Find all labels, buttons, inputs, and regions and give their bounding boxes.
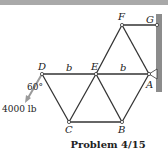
angle-label: 60° <box>27 82 43 92</box>
member-CE <box>69 74 96 122</box>
joint-label-D: D <box>37 61 46 72</box>
joint-label-C: C <box>65 124 73 135</box>
truss-diagram: D E A C B F G b b 60° 4000 lb <box>0 0 168 156</box>
joint-label-F: F <box>117 11 126 22</box>
figure-caption: Problem 4/15 <box>0 139 168 150</box>
joint-label-E: E <box>90 61 99 72</box>
member-BA <box>122 74 149 122</box>
dimension-label-b2: b <box>120 62 126 73</box>
joint-label-B: B <box>117 124 125 135</box>
truss-members <box>42 25 157 122</box>
joint-label-G: G <box>146 14 154 25</box>
member-DC <box>42 74 69 122</box>
dimension-label-b1: b <box>66 62 72 73</box>
joint-label-A: A <box>145 79 153 90</box>
member-EF <box>96 25 122 74</box>
caption-text: Problem 4/15 <box>22 139 145 150</box>
load-label: 4000 lb <box>2 104 37 114</box>
member-EB <box>96 74 122 122</box>
